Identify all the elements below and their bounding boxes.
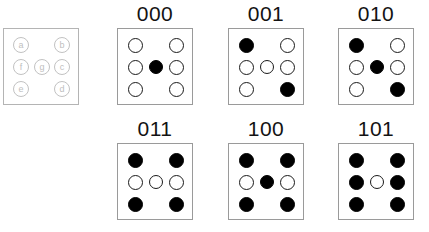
cell-f-empty <box>239 60 254 75</box>
cell-g-filled <box>149 60 163 74</box>
cell-b-filled <box>169 153 184 168</box>
legend-cell-a: a <box>13 37 29 53</box>
state-panel-010: 010 <box>338 28 414 105</box>
cell-a-filled <box>349 153 364 168</box>
cell-d-filled <box>169 197 184 212</box>
cell-b-empty <box>390 38 405 53</box>
legend-label-g: g <box>39 63 44 72</box>
cell-e-filled <box>239 197 254 212</box>
legend-label-a: a <box>18 41 23 50</box>
cell-g-empty <box>370 175 384 189</box>
panel-title-011: 011 <box>117 117 193 141</box>
legend-label-c: c <box>60 63 65 72</box>
cell-grid-010 <box>338 28 414 105</box>
cell-b-empty <box>280 38 295 53</box>
cell-a-filled <box>128 153 143 168</box>
cell-c-empty <box>169 60 184 75</box>
panel-title-010: 010 <box>338 2 414 26</box>
cell-a-empty <box>128 38 143 53</box>
cell-d-filled <box>390 197 405 212</box>
state-panel-000: 000 <box>117 28 193 105</box>
cell-e-filled <box>349 197 364 212</box>
cell-f-empty <box>128 60 143 75</box>
cell-f-empty <box>349 60 364 75</box>
legend-cell-f: f <box>13 59 29 75</box>
panel-title-000: 000 <box>117 2 193 26</box>
state-panel-001: 001 <box>228 28 304 105</box>
cell-a-filled <box>239 38 254 53</box>
cell-c-empty <box>280 60 295 75</box>
panel-title-100: 100 <box>228 117 304 141</box>
cell-c-filled <box>390 175 405 190</box>
legend-label-f: f <box>20 63 23 72</box>
cell-f-empty <box>239 175 254 190</box>
cell-f-empty <box>128 175 143 190</box>
cell-f-filled <box>349 175 364 190</box>
legend-panel: a b f g c e d <box>3 28 79 105</box>
panel-title-101: 101 <box>338 117 414 141</box>
cell-d-empty <box>169 82 184 97</box>
cell-a-filled <box>349 38 364 53</box>
cell-c-empty <box>280 175 295 190</box>
state-panel-101: 101 <box>338 143 414 220</box>
cell-d-filled <box>390 82 405 97</box>
legend-cell-b: b <box>54 37 70 53</box>
cell-grid-000 <box>117 28 193 105</box>
legend-cell-e: e <box>13 81 29 97</box>
cell-e-empty <box>239 82 254 97</box>
cell-e-filled <box>128 197 143 212</box>
cell-g-empty <box>149 175 163 189</box>
cell-grid-001 <box>228 28 304 105</box>
cell-b-filled <box>280 153 295 168</box>
legend-cell-g: g <box>34 59 50 75</box>
cell-b-filled <box>390 153 405 168</box>
cell-g-filled <box>260 175 274 189</box>
legend-grid: a b f g c e d <box>3 28 79 105</box>
figure-canvas: a b f g c e d 000001010011100101 <box>0 0 429 232</box>
cell-g-empty <box>260 60 274 74</box>
cell-d-filled <box>280 197 295 212</box>
cell-grid-100 <box>228 143 304 220</box>
cell-c-empty <box>390 60 405 75</box>
cell-d-filled <box>280 82 295 97</box>
legend-label-e: e <box>18 85 23 94</box>
cell-b-empty <box>169 38 184 53</box>
cell-e-empty <box>349 82 364 97</box>
cell-g-filled <box>370 60 384 74</box>
legend-label-b: b <box>59 41 64 50</box>
cell-grid-101 <box>338 143 414 220</box>
state-panel-011: 011 <box>117 143 193 220</box>
cell-grid-011 <box>117 143 193 220</box>
legend-label-d: d <box>59 85 64 94</box>
state-panel-100: 100 <box>228 143 304 220</box>
legend-cell-d: d <box>54 81 70 97</box>
cell-e-empty <box>128 82 143 97</box>
cell-a-filled <box>239 153 254 168</box>
panel-title-001: 001 <box>228 2 304 26</box>
cell-c-empty <box>169 175 184 190</box>
legend-cell-c: c <box>54 59 70 75</box>
